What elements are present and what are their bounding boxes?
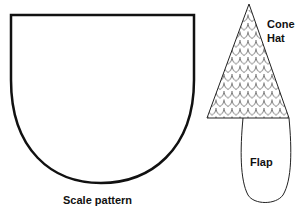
flap-label: Flap: [250, 156, 273, 169]
cone-hat-label-line2: Hat: [267, 32, 285, 45]
scale-pattern-shape: [11, 15, 194, 183]
scale-pattern-label: Scale pattern: [63, 194, 132, 207]
diagram-canvas: [0, 0, 301, 215]
cone-hat-label-line1: Cone: [267, 18, 295, 31]
